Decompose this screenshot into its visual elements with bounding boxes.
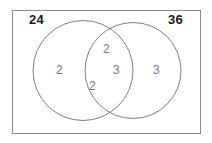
venn-diagram-figure: 24 36 2 2 3 2 3 bbox=[0, 0, 212, 143]
region-value-intersection-top: 2 bbox=[103, 43, 110, 55]
universe-label-right: 36 bbox=[168, 13, 183, 26]
region-value-left-only: 2 bbox=[56, 64, 63, 76]
universe-label-left: 24 bbox=[29, 13, 44, 26]
region-value-intersection-right: 3 bbox=[113, 64, 120, 76]
region-value-intersection-lower: 2 bbox=[89, 80, 96, 92]
region-value-right-only: 3 bbox=[153, 64, 160, 76]
